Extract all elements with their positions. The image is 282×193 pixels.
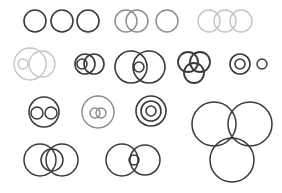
- circle-diagram-canvas: [0, 0, 282, 193]
